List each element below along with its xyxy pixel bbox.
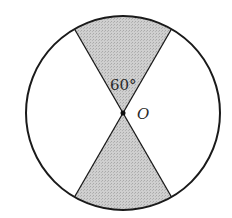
shaded-sector-top bbox=[75, 16, 172, 113]
center-label: O bbox=[137, 105, 149, 123]
circle-diagram: 60° O bbox=[0, 0, 232, 218]
center-point bbox=[121, 111, 126, 116]
shaded-sector-bottom bbox=[75, 113, 172, 210]
angle-label: 60° bbox=[110, 76, 137, 94]
